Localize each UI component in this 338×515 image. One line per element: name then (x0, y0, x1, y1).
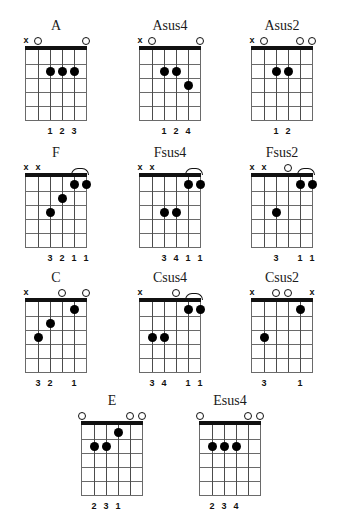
fret-line (82, 481, 142, 482)
fret-line (26, 344, 86, 345)
fret-line (252, 344, 312, 345)
finger-dot (172, 67, 181, 76)
fret-line (26, 330, 86, 331)
muted-string-icon (259, 162, 270, 173)
barre-arc (185, 168, 203, 175)
finger-number: 1 (69, 377, 79, 390)
string-line (288, 177, 289, 247)
open-muted-marker-row (199, 410, 261, 421)
fret-line (252, 330, 312, 331)
fret-line (252, 78, 312, 79)
finger-dot (296, 305, 305, 314)
finger-number-row: 321 (25, 377, 87, 390)
chord-name-label: Esus4 (182, 393, 278, 408)
string-line (176, 50, 177, 120)
muted-string-icon (307, 287, 318, 298)
finger-number-row: 3411 (139, 377, 201, 390)
finger-number: 2 (57, 252, 67, 265)
finger-dot (184, 81, 193, 90)
finger-number-row: 234 (199, 500, 261, 513)
open-string-icon (33, 35, 44, 46)
finger-number: 3 (69, 125, 79, 138)
string-line (62, 50, 63, 120)
finger-number-row: 12 (251, 125, 313, 138)
open-string-icon (77, 410, 88, 421)
string-line (176, 302, 177, 372)
fret-line (26, 358, 86, 359)
finger-number-row: 3211 (25, 252, 87, 265)
fretboard (251, 298, 313, 374)
muted-string-icon (33, 162, 44, 173)
open-string-icon (81, 287, 92, 298)
chord-name-label: A (8, 18, 104, 33)
finger-number: 1 (113, 500, 123, 513)
finger-number: 2 (283, 125, 293, 138)
finger-dot (114, 428, 123, 437)
finger-dot (58, 67, 67, 76)
finger-number: 1 (81, 252, 91, 265)
finger-number: 1 (69, 252, 79, 265)
finger-dot (70, 67, 79, 76)
finger-dot (46, 67, 55, 76)
string-line (276, 302, 277, 372)
fret-line (252, 233, 312, 234)
string-line (74, 50, 75, 120)
finger-dot (296, 180, 305, 189)
muted-string-icon (147, 162, 158, 173)
finger-number: 3 (147, 377, 157, 390)
finger-number: 3 (33, 377, 43, 390)
finger-dot (46, 208, 55, 217)
fretboard (139, 173, 201, 249)
open-string-icon (283, 287, 294, 298)
string-line (62, 302, 63, 372)
barre-arc (297, 168, 315, 175)
fretboard (25, 298, 87, 374)
fret-line (252, 106, 312, 107)
fret-line (82, 467, 142, 468)
finger-number: 2 (171, 125, 181, 138)
fret-line (26, 106, 86, 107)
finger-number-row: 311 (251, 252, 313, 265)
finger-number: 3 (159, 252, 169, 265)
fret-line (252, 64, 312, 65)
finger-dot (184, 305, 193, 314)
chord-diagram-a: A123 (8, 18, 104, 138)
open-string-icon (243, 410, 254, 421)
finger-dot (58, 194, 67, 203)
finger-number: 2 (45, 377, 55, 390)
string-line (152, 177, 153, 247)
finger-dot (284, 67, 293, 76)
finger-number: 1 (195, 377, 205, 390)
chord-diagram-fsus2: Fsus2311 (234, 145, 330, 265)
finger-dot (90, 442, 99, 451)
fret-line (140, 205, 200, 206)
barre-arc (185, 293, 203, 300)
finger-number: 3 (271, 252, 281, 265)
fret-line (252, 205, 312, 206)
fretboard (25, 173, 87, 249)
muted-string-icon (135, 287, 146, 298)
finger-number: 1 (307, 252, 317, 265)
open-string-icon (283, 162, 294, 173)
string-line (62, 177, 63, 247)
finger-number: 1 (159, 125, 169, 138)
finger-number-row: 231 (81, 500, 143, 513)
open-string-icon (137, 410, 148, 421)
finger-dot (160, 67, 169, 76)
fretboard (139, 46, 201, 122)
chord-diagram-csus2: Csus231 (234, 270, 330, 390)
string-line (164, 50, 165, 120)
fret-line (26, 219, 86, 220)
chord-name-label: C (8, 270, 104, 285)
finger-dot (172, 208, 181, 217)
fret-line (26, 64, 86, 65)
fret-line (140, 64, 200, 65)
chord-name-label: Fsus2 (234, 145, 330, 160)
fret-line (140, 330, 200, 331)
fretboard (81, 421, 143, 497)
string-line (106, 425, 107, 495)
fret-line (140, 191, 200, 192)
fret-line (252, 219, 312, 220)
fret-line (140, 92, 200, 93)
chord-diagram-c: C321 (8, 270, 104, 390)
